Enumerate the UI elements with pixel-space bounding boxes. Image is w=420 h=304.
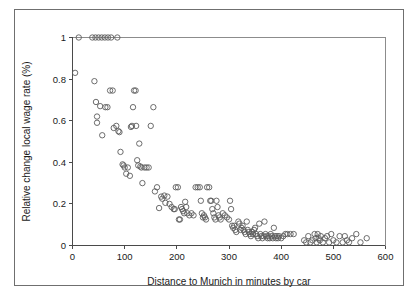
data-point [358, 240, 363, 245]
data-point [165, 194, 170, 199]
data-point [364, 236, 369, 241]
data-point [97, 103, 102, 108]
data-point [92, 78, 97, 83]
figure-container: 00.20.40.60.810100200300400500600 Distan… [0, 0, 420, 304]
data-point [134, 158, 139, 163]
data-point [257, 221, 262, 226]
axis-tick-labels: 00.20.40.60.810100200300400500600 [53, 32, 394, 262]
data-point [156, 205, 161, 210]
data-point [349, 236, 354, 241]
data-point [137, 141, 142, 146]
y-axis-title: Relative change local wage rate (%) [21, 61, 32, 221]
data-point [214, 198, 219, 203]
data-point [227, 198, 232, 203]
y-tick-label: 0.4 [53, 157, 66, 168]
y-tick-label: 0.8 [53, 74, 66, 85]
y-tick-label: 1 [61, 32, 66, 43]
data-point [151, 104, 156, 109]
data-point [100, 133, 105, 138]
x-tick-label: 100 [117, 251, 133, 262]
x-tick-label: 200 [169, 251, 185, 262]
data-point [148, 123, 153, 128]
data-point [94, 114, 99, 119]
data-point [262, 219, 267, 224]
data-point [130, 104, 135, 109]
y-tick-label: 0.2 [53, 198, 66, 209]
data-point [182, 199, 187, 204]
scatter-plot: 00.20.40.60.810100200300400500600 Distan… [0, 0, 420, 304]
data-point [244, 219, 249, 224]
data-point [215, 204, 220, 209]
y-tick-label: 0 [61, 240, 66, 251]
data-point [337, 233, 342, 238]
data-point [140, 180, 145, 185]
x-tick-label: 0 [70, 251, 75, 262]
data-point [72, 70, 77, 75]
data-point [93, 99, 98, 104]
data-point [228, 206, 233, 211]
data-point [306, 233, 311, 238]
x-tick-label: 400 [273, 251, 289, 262]
x-tick-label: 500 [325, 251, 341, 262]
x-tick-label: 600 [378, 251, 394, 262]
data-point [354, 231, 359, 236]
plot-axes-frame [73, 38, 386, 246]
data-point [198, 198, 203, 203]
data-point [271, 225, 276, 230]
x-axis-title: Distance to Munich in minutes by car [147, 276, 311, 287]
data-point [118, 149, 123, 154]
data-point [94, 120, 99, 125]
x-tick-label: 300 [221, 251, 237, 262]
data-points [72, 35, 369, 245]
y-tick-label: 0.6 [53, 115, 66, 126]
